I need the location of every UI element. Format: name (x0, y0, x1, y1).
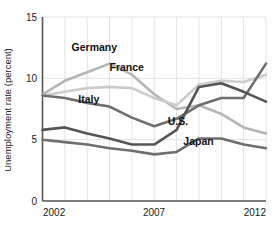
y-tick-label-5: 5 (31, 134, 37, 145)
chart-canvas: 15 10 5 0 2002 2007 2012 Unemployment ra… (0, 0, 275, 243)
series-label-us: U.S. (168, 115, 189, 127)
y-tick-label-15: 15 (26, 12, 38, 23)
y-tick-label-0: 0 (31, 196, 37, 207)
series-label-france: France (110, 61, 145, 73)
series-label-italy: Italy (78, 93, 99, 105)
series-label-japan: Japan (183, 135, 213, 147)
x-tick-label-2012: 2012 (244, 207, 267, 218)
unemployment-rate-line-chart: 15 10 5 0 2002 2007 2012 Unemployment ra… (0, 0, 275, 243)
y-axis-title: Unemployment rate (percent) (2, 48, 13, 172)
x-tick-label-2002: 2002 (43, 207, 66, 218)
y-tick-label-10: 10 (26, 73, 38, 84)
series-label-germany: Germany (72, 41, 118, 53)
x-tick-label-2007: 2007 (143, 207, 166, 218)
